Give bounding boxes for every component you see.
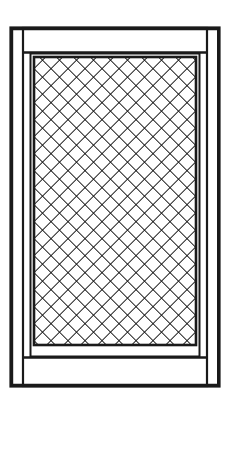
figure-canvas [0,0,229,464]
lattice-panel-drawing [0,0,229,464]
diagonal-lattice-mesh [34,57,196,345]
